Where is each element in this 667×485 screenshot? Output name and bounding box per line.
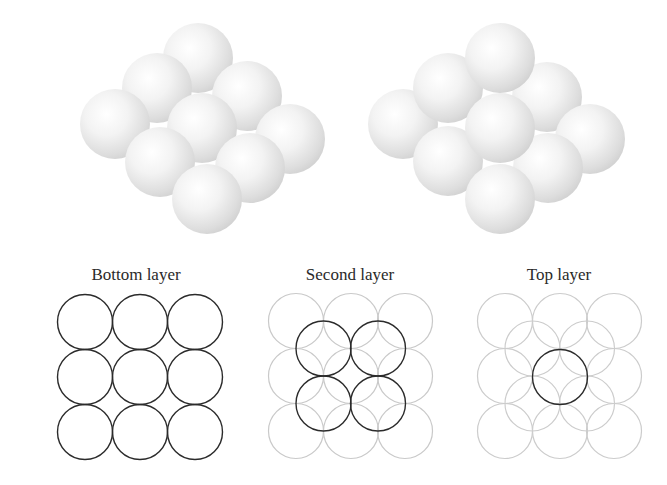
dark-circle [351,376,406,431]
faded-circle [478,404,533,459]
sphere-packing-figure: Bottom layer Second layer Top layer [0,0,667,485]
panel-label-top-layer: Top layer [527,265,592,284]
dark-circle [296,321,351,376]
faded-circle [478,349,533,404]
sphere-stack-left [80,23,325,234]
dark-circle [113,295,168,350]
dark-circle [168,405,223,460]
highlighted-second-layer [296,321,406,431]
dark-circle [58,295,113,350]
faded-circle [533,294,588,349]
faded-circle [378,404,433,459]
dark-circle [58,405,113,460]
faded-circle [269,294,324,349]
panel-second-layer [269,294,433,459]
sphere [172,164,242,234]
faded-circle [324,294,379,349]
sphere [465,93,535,163]
faded-circle [587,349,642,404]
faded-circle [587,404,642,459]
sphere-stack-right [368,23,625,234]
sphere [465,164,535,234]
sphere [465,23,535,93]
dark-circle [113,350,168,405]
panel-label-bottom-layer: Bottom layer [91,265,181,284]
figure-canvas: Bottom layer Second layer Top layer [0,0,667,485]
dark-circle [168,350,223,405]
faded-bottom-layer [269,294,433,459]
faded-circle [587,294,642,349]
faded-circle [478,294,533,349]
panel-label-second-layer: Second layer [306,265,395,284]
faded-circle [269,349,324,404]
dark-circle [58,350,113,405]
faded-circle [324,404,379,459]
faded-circle [560,321,615,376]
dark-circle [351,321,406,376]
dark-circle [296,376,351,431]
dark-circle [113,405,168,460]
panel-bottom-layer [58,295,223,460]
faded-lower-layers [478,294,642,459]
faded-circle [505,321,560,376]
faded-circle [269,404,324,459]
faded-circle [378,294,433,349]
faded-circle [378,349,433,404]
faded-circle [324,349,379,404]
panel-top-layer [478,294,642,459]
faded-circle [533,404,588,459]
dark-circle [168,295,223,350]
